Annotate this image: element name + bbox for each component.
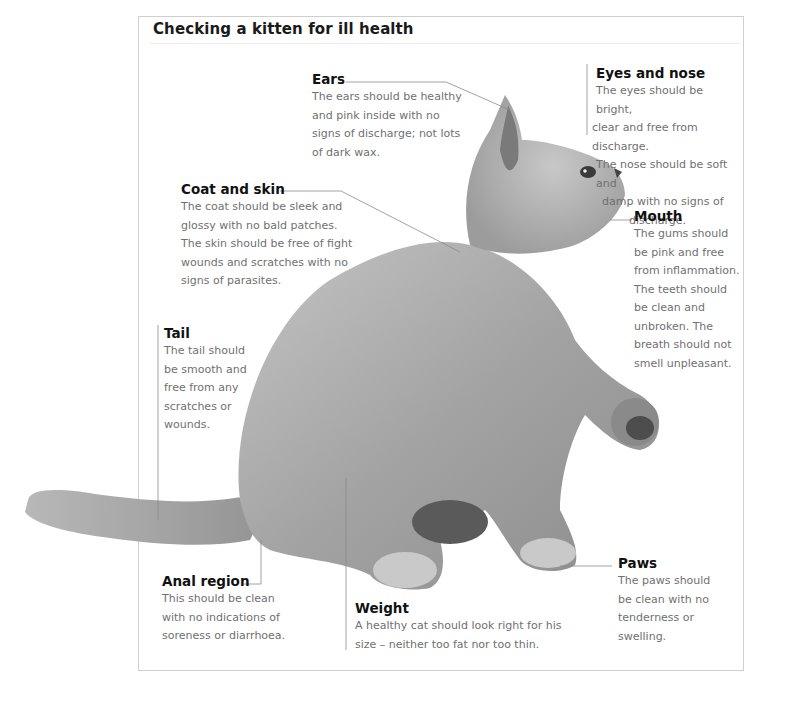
callout-line: from inflammation. [634,262,744,281]
callout-line: clear and free from discharge. [592,119,742,156]
callout-line: The ears should be healthy [312,88,492,107]
kitten-tail [25,490,256,545]
callout-ears: Ears The ears should be healthy and pink… [312,70,492,162]
callout-paws: Paws The paws should be clean with no te… [618,554,743,646]
callout-line: breath should not [634,336,744,355]
callout-line: be clean with no [618,591,743,610]
callout-coat-skin: Coat and skin The coat should be sleek a… [181,180,361,291]
callout-heading: Mouth [634,207,744,225]
callout-line: wounds and scratches with no [181,254,361,273]
callout-tail: Tail The tail should be smooth and free … [164,324,264,435]
callout-line: This should be clean [162,590,322,609]
callout-line: soreness or diarrhoea. [162,627,322,646]
callout-line: size – neither too fat nor too thin. [355,636,575,655]
callout-line: scratches or [164,398,264,417]
callout-line: wounds. [164,416,264,435]
callout-line: be clean and [634,299,744,318]
callout-heading: Weight [355,599,575,617]
callout-heading: Ears [312,70,492,88]
callout-mouth: Mouth The gums should be pink and free f… [634,207,744,373]
callout-line: be pink and free [634,244,744,263]
callout-line: The gums should [634,225,744,244]
callout-line: be smooth and [164,361,264,380]
callout-line: The eyes should be bright, [592,82,742,119]
callout-line: The tail should [164,342,264,361]
callout-eyes-nose: Eyes and nose The eyes should be bright,… [592,64,742,230]
callout-heading: Coat and skin [181,180,361,198]
callout-line: with no indications of [162,609,322,628]
callout-line: and pink inside with no [312,107,492,126]
callout-line: signs of discharge; not lots [312,125,492,144]
callout-line: The teeth should [634,281,744,300]
callout-heading: Paws [618,554,743,572]
callout-line: smell unpleasant. [634,355,744,374]
callout-heading: Eyes and nose [592,64,742,82]
callout-line: free from any [164,379,264,398]
callout-anal-region: Anal region This should be clean with no… [162,572,322,646]
callout-line: unbroken. The [634,318,744,337]
callout-line: signs of parasites. [181,272,361,291]
callout-heading: Anal region [162,572,322,590]
callout-weight: Weight A healthy cat should look right f… [355,599,575,654]
callout-line: glossy with no bald patches. [181,217,361,236]
callout-line: tenderness or swelling. [618,609,743,646]
callout-line: of dark wax. [312,144,492,163]
callout-heading: Tail [164,324,264,342]
callout-line: A healthy cat should look right for his [355,617,575,636]
callout-line: The coat should be sleek and [181,198,361,217]
callout-line: The skin should be free of fight [181,235,361,254]
kitten-back-paw [412,500,488,544]
callout-line: The paws should [618,572,743,591]
callout-line: The nose should be soft and [592,156,742,193]
